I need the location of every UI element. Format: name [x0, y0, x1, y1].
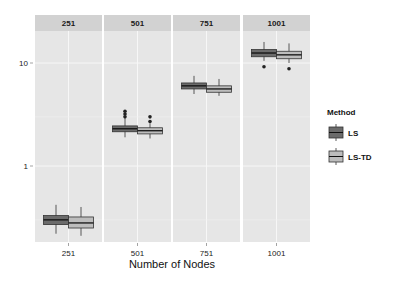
outlier-point: [262, 65, 266, 69]
legend-label: LS-TD: [348, 153, 372, 162]
y-tick-label: 10: [19, 59, 28, 68]
facet-strip-label: 251: [62, 19, 76, 28]
legend-key-ls: LS: [329, 124, 359, 141]
outlier-point: [148, 120, 152, 124]
x-tick-label: 751: [200, 249, 214, 258]
facet-panel-751: 751: [173, 15, 240, 242]
facet-panel-251: 251: [35, 15, 102, 242]
x-tick-label: 251: [62, 249, 76, 258]
legend-key-ls-td: LS-TD: [329, 148, 372, 165]
y-tick-label: 1: [24, 162, 29, 171]
outlier-point: [148, 115, 152, 119]
facet-panel-501: 501: [104, 15, 171, 242]
x-tick-label: 1001: [268, 249, 286, 258]
outlier-point: [123, 109, 127, 113]
boxplot-chart: 11025125150150175175110011001Number of N…: [0, 0, 394, 288]
facet-strip-label: 501: [131, 19, 145, 28]
legend-title: Method: [327, 108, 356, 117]
facet-strip-label: 751: [200, 19, 214, 28]
x-tick-label: 501: [131, 249, 145, 258]
facet-strip-label: 1001: [268, 19, 286, 28]
legend-label: LS: [348, 129, 359, 138]
outlier-point: [287, 67, 291, 71]
legend: MethodLSLS-TD: [327, 108, 372, 165]
x-axis-title: Number of Nodes: [129, 258, 216, 270]
facet-panel-1001: 1001: [243, 15, 310, 242]
